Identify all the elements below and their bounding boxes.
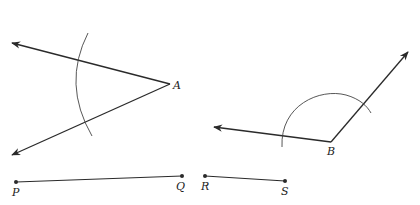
point-s bbox=[283, 179, 287, 183]
angle-a-upper-ray bbox=[12, 43, 170, 84]
point-p bbox=[14, 180, 18, 184]
label-a: A bbox=[172, 79, 181, 92]
angle-a: A bbox=[12, 33, 181, 155]
angle-b: B bbox=[214, 52, 408, 158]
angle-b-left-ray bbox=[214, 127, 331, 142]
segment-pq-line bbox=[16, 176, 182, 182]
label-p: P bbox=[11, 186, 20, 199]
angle-b-arc bbox=[282, 93, 371, 147]
segment-rs-line bbox=[205, 176, 285, 181]
geometry-diagram: A B P Q R S bbox=[0, 0, 420, 205]
segment-rs: R S bbox=[200, 174, 289, 198]
label-q: Q bbox=[176, 180, 185, 193]
angle-a-lower-ray bbox=[12, 84, 170, 155]
segment-pq: P Q bbox=[11, 174, 185, 199]
label-s: S bbox=[281, 185, 289, 198]
angle-b-right-ray bbox=[331, 52, 408, 142]
label-r: R bbox=[200, 180, 209, 193]
label-b: B bbox=[326, 145, 335, 158]
point-q bbox=[180, 174, 184, 178]
point-r bbox=[203, 174, 207, 178]
